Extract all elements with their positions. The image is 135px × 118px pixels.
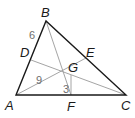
length-gf: 3 [63,83,69,95]
label-c: C [121,98,131,113]
label-e: E [86,45,95,60]
label-a: A [4,98,14,113]
triangle-diagram: B A C D E F G 6 9 3 [0,0,135,118]
label-b: B [41,5,50,20]
label-f: F [67,99,76,114]
median-c-d [31,60,126,95]
length-bd: 6 [29,29,35,41]
label-d: D [20,45,29,60]
label-g: G [68,60,78,75]
length-ag: 9 [36,74,42,86]
